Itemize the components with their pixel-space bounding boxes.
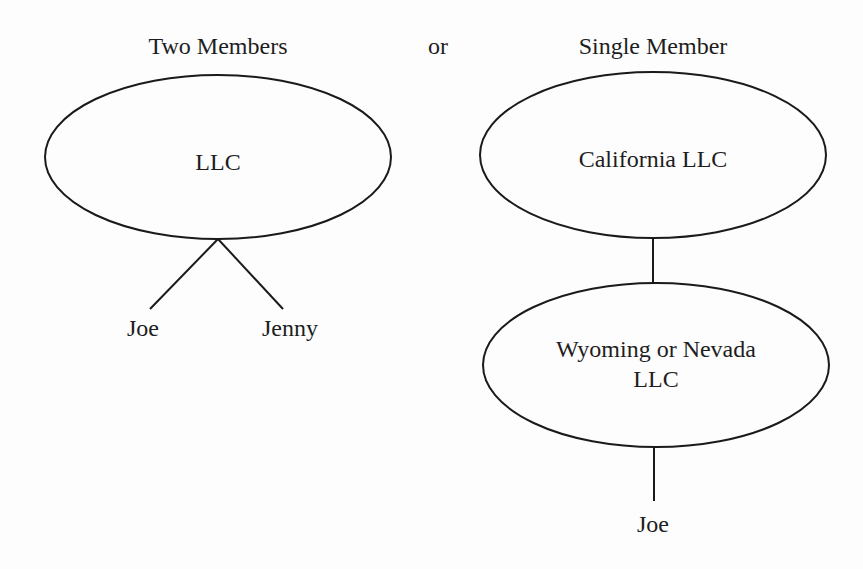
single-member-heading: Single Member xyxy=(579,32,728,60)
connector-llc-to-joe xyxy=(150,239,218,309)
wyoming-nevada-llc-label: Wyoming or Nevada LLC xyxy=(556,334,756,394)
llc-label: LLC xyxy=(195,148,240,176)
member-jenny: Jenny xyxy=(262,314,318,342)
wyoming-nevada-line1: Wyoming or Nevada xyxy=(556,334,756,364)
member-joe-right: Joe xyxy=(637,510,669,538)
wyoming-nevada-line2: LLC xyxy=(556,364,756,394)
or-separator: or xyxy=(428,32,448,60)
member-joe-left: Joe xyxy=(127,314,159,342)
connector-llc-to-jenny xyxy=(218,239,283,309)
diagram-canvas xyxy=(0,0,863,569)
two-members-heading: Two Members xyxy=(149,32,288,60)
california-llc-label: California LLC xyxy=(579,145,728,173)
